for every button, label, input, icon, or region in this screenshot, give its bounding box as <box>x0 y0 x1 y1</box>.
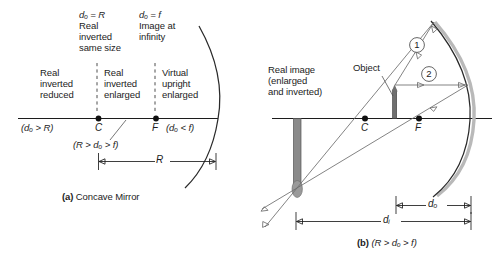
panel-b-caption-prefix: (b) <box>357 237 369 248</box>
panel-b-ray-label-2-text: 2 <box>426 69 431 80</box>
concave-mirror-figure: dₒ = R Real inverted same size dₒ = f Im… <box>0 0 495 260</box>
panel-b-dimension-label-di: dᵢ <box>383 215 390 226</box>
panel-b-point-f <box>416 116 422 122</box>
panel-b-image-label-line1: Real image <box>268 65 315 76</box>
panel-b-label-c: C <box>361 123 368 134</box>
panel-b-ray-label-1-text: 1 <box>414 40 419 51</box>
panel-b-mirror-shadow <box>435 22 474 196</box>
panel-b-label-f: F <box>415 123 421 134</box>
panel-b-image-label-line3: and inverted) <box>268 87 322 98</box>
panel-b-dimension-label-do: dₒ <box>428 199 437 210</box>
panel-b-object-bar <box>393 90 397 119</box>
panel-b-caption-text: (R > dₒ > f) <box>371 237 416 248</box>
panel-b-mirror-arc <box>431 21 470 197</box>
panel-b-object-arrowhead <box>392 85 398 92</box>
panel-b-point-c <box>362 116 368 122</box>
panel-b-image-bar <box>294 119 302 185</box>
panel-b-ray-1 <box>263 22 438 227</box>
panel-b-image-label-line2: (enlarged <box>268 76 307 87</box>
panel-b-caption: (b) (R > dₒ > f) <box>357 238 417 249</box>
panel-b-object-label: Object <box>353 63 380 74</box>
